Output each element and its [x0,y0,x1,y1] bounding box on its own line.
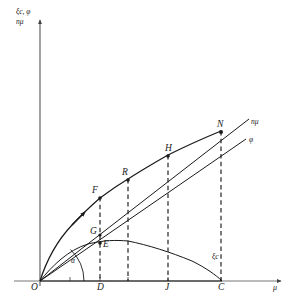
dot-R [126,178,130,182]
point-label-J: J [165,283,169,293]
diagram-canvas [0,0,295,308]
point-label-E: E [103,240,109,250]
dropline-group [100,131,221,281]
dot-G [98,233,101,236]
dot-E [98,241,102,245]
point-label-H: H [165,144,172,154]
x-axis-ticks [70,277,221,281]
y-axis-label: ξс, φ nμ [16,7,30,27]
point-label-C: C [218,283,224,293]
y-axis-label-line2: nμ [16,17,30,27]
angle-arc-alpha [71,250,85,282]
curve-xi-c [40,240,222,281]
point-label-F: F [92,186,98,196]
curve-label-n-mu: nμ [251,118,259,126]
figure-container: ξс, φ nμ μ O D J C F R H N G E α nμ φ ξс [0,0,295,308]
point-label-G: G [90,227,97,237]
curve-label-xi-c: ξс [212,253,219,261]
point-label-D: D [97,283,104,293]
dot-H [166,154,170,158]
direction-arrow-icon [72,213,84,225]
point-label-N: N [217,120,223,130]
angle-label-alpha: α [71,257,75,265]
x-axis-label: μ [273,284,277,292]
curve-trajectory-OFRHN [40,131,221,281]
y-axis-label-line1: ξс, φ [16,7,30,17]
point-label-R: R [122,168,128,178]
dot-F [98,196,102,200]
dot-N [219,130,223,134]
curve-label-phi: φ [249,136,253,144]
point-label-O: O [31,283,38,293]
